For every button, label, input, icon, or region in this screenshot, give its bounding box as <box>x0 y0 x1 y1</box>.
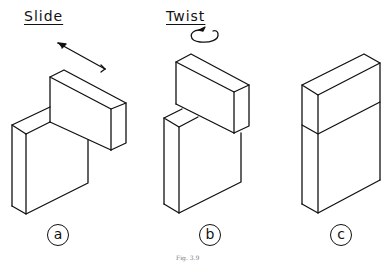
slide-label: Slide <box>24 8 63 24</box>
panel-marker-c: c <box>330 224 352 246</box>
stacked-blocks-c <box>302 54 380 213</box>
lower-block-a <box>12 107 88 214</box>
twist-arrow-icon <box>191 27 218 42</box>
upper-block-a <box>50 70 126 150</box>
panel-marker-a: a <box>47 224 69 246</box>
upper-block-b <box>176 54 249 133</box>
lower-block-b <box>164 109 241 213</box>
figure-caption: Fig. 3.9 <box>176 254 199 261</box>
slide-arrow-icon <box>58 43 105 72</box>
twist-label: Twist <box>166 8 205 24</box>
panel-marker-b: b <box>199 224 221 246</box>
